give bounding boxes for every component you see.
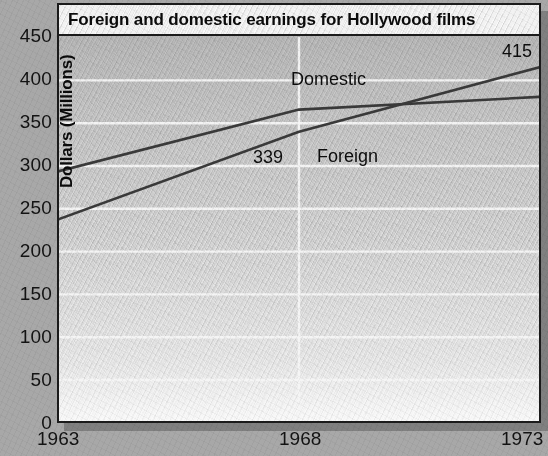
y-tick-label-250: 250 bbox=[6, 198, 52, 217]
x-tick-label-1973: 1973 bbox=[501, 428, 543, 450]
y-tick-label-400: 400 bbox=[6, 69, 52, 88]
x-tick-label-1963: 1963 bbox=[37, 428, 79, 450]
y-tick-label-50: 50 bbox=[6, 370, 52, 389]
chart-canvas bbox=[59, 5, 541, 423]
y-tick-label-100: 100 bbox=[6, 327, 52, 346]
y-axis-title: Dollars (Millions) bbox=[57, 55, 77, 188]
series-label-domestic: Domestic bbox=[291, 69, 366, 90]
y-axis: 450 400 350 300 250 200 150 100 50 0 bbox=[0, 0, 52, 456]
data-label-339: 339 bbox=[253, 147, 283, 168]
chart-title: Foreign and domestic earnings for Hollyw… bbox=[59, 10, 475, 30]
y-tick-label-450: 450 bbox=[6, 26, 52, 45]
plot-area: Foreign and domestic earnings for Hollyw… bbox=[57, 3, 541, 423]
y-tick-label-300: 300 bbox=[6, 155, 52, 174]
chart-figure: 450 400 350 300 250 200 150 100 50 0 bbox=[0, 0, 548, 456]
y-tick-label-150: 150 bbox=[6, 284, 52, 303]
chart-title-bar: Foreign and domestic earnings for Hollyw… bbox=[59, 5, 539, 36]
series-label-foreign: Foreign bbox=[317, 146, 378, 167]
data-label-415: 415 bbox=[502, 41, 532, 62]
plot-area-wrapper: Foreign and domestic earnings for Hollyw… bbox=[57, 3, 541, 423]
y-tick-label-200: 200 bbox=[6, 241, 52, 260]
x-axis: 1963 1968 1973 bbox=[0, 428, 548, 456]
y-tick-label-350: 350 bbox=[6, 112, 52, 131]
x-tick-label-1968: 1968 bbox=[279, 428, 321, 450]
